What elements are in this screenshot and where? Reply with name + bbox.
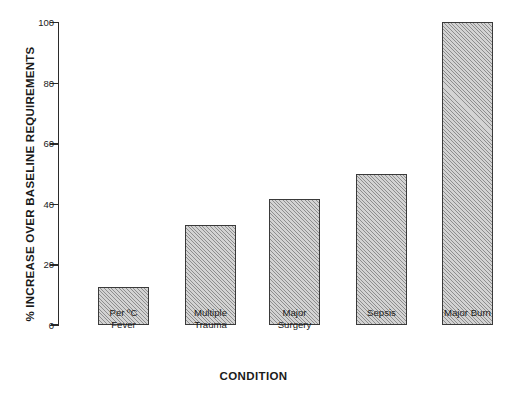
x-category-label-5: Major Burn xyxy=(428,307,507,319)
bar-5 xyxy=(442,22,493,325)
x-axis-title: CONDITION xyxy=(0,370,507,382)
y-axis-line xyxy=(58,22,59,325)
x-category-label-2: Multiple Trauma xyxy=(171,307,250,330)
bar-4 xyxy=(356,174,407,326)
y-axis-title: % INCREASE OVER BASELINE REQUIREMENTS xyxy=(24,24,36,344)
y-tick-label: 20 xyxy=(43,259,54,270)
x-category-label-3: Major Surgery xyxy=(255,307,334,330)
x-category-label-4: Sepsis xyxy=(342,307,421,319)
y-tick-label: 100 xyxy=(38,17,54,28)
y-tick-label: 40 xyxy=(43,198,54,209)
y-tick-label: 80 xyxy=(43,77,54,88)
bar-chart: % INCREASE OVER BASELINE REQUIREMENTS 02… xyxy=(0,0,507,394)
x-category-label-1: Per ºC Fever xyxy=(84,307,163,330)
y-tick-label: 60 xyxy=(43,138,54,149)
y-tick-label: 0 xyxy=(49,320,54,331)
plot-area: 020406080100 xyxy=(58,22,500,325)
